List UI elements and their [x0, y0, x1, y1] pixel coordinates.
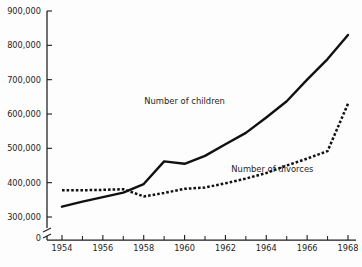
- series-label-number-of-divorces: Number of divorces: [231, 164, 313, 174]
- y-axis-break-marker: [43, 228, 51, 238]
- axis-break-slash-upper: [43, 228, 51, 232]
- series-line-number-of-divorces: [62, 104, 348, 197]
- y-tick-label: 700,000: [7, 75, 41, 85]
- y-tick-label: 300,000: [7, 212, 41, 222]
- x-tick-label: 1954: [52, 243, 73, 253]
- line-chart: 300,000400,000500,000600,000700,000800,0…: [0, 0, 362, 267]
- y-axis-ticks: [47, 11, 52, 217]
- x-tick-label: 1958: [133, 243, 154, 253]
- y-axis-zero-label: 0: [36, 233, 41, 243]
- x-axis: 19541956195819601962196419661968: [47, 235, 358, 253]
- y-tick-label: 600,000: [7, 109, 41, 119]
- x-tick-label: 1956: [92, 243, 113, 253]
- x-tick-label: 1966: [297, 243, 318, 253]
- chart-container: 300,000400,000500,000600,000700,000800,0…: [0, 0, 362, 267]
- series-line-number-of-children: [62, 35, 348, 207]
- series-label-number-of-children: Number of children: [144, 96, 225, 106]
- y-tick-label: 500,000: [7, 143, 41, 153]
- y-tick-label: 800,000: [7, 40, 41, 50]
- y-tick-label: 400,000: [7, 178, 41, 188]
- y-tick-label: 900,000: [7, 6, 41, 16]
- x-tick-label: 1964: [256, 243, 277, 253]
- y-axis-tick-labels: 300,000400,000500,000600,000700,000800,0…: [7, 6, 41, 222]
- x-axis-tick-labels: 19541956195819601962196419661968: [52, 243, 359, 253]
- y-axis: 300,000400,000500,000600,000700,000800,0…: [7, 6, 52, 243]
- x-tick-label: 1962: [215, 243, 236, 253]
- data-series-group: [62, 35, 348, 207]
- x-tick-label: 1960: [174, 243, 195, 253]
- x-tick-label: 1968: [338, 243, 359, 253]
- x-axis-ticks: [62, 235, 348, 240]
